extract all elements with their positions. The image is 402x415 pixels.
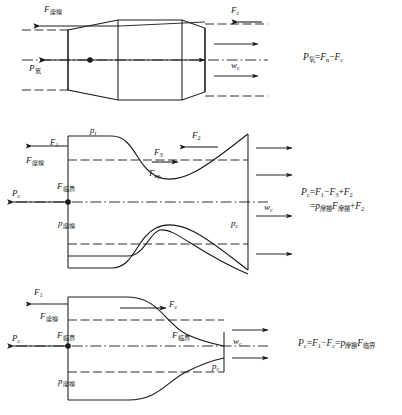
label-pc-right-p3: pc [212,362,219,371]
label-f2-p2: F2 [192,131,201,140]
label-pc-left-p3: Pc [12,334,20,343]
equation-panel-3: Pc=F1−Fc=p摩擦F临界 [298,337,375,351]
label-f-critical-left-p3: F临界 [57,331,75,340]
label-pr-p2: pr [90,126,97,135]
panel-2-lower-contour [68,225,248,270]
label-p-friction-p3: p摩擦 [58,377,75,386]
label-f1-p2: F1 [50,138,59,147]
label-f1-p3: F1 [34,288,43,297]
label-f-friction-p1: F摩擦 [44,5,62,14]
label-f-friction-p2: F摩擦 [26,156,44,165]
label-p-oxygen-p1: P氧 [29,64,41,73]
label-f-critical-right-p3: F临界 [172,331,190,340]
panel-3-upper-contour [68,297,224,346]
label-wc-p2: wc [264,203,273,212]
equation-panel-2: Pc=F1−F3+F2 =p摩擦F摩擦+F2 [301,186,364,214]
label-f3-p2: F3 [154,148,163,157]
panel-3-lower-contour [68,358,224,400]
equation-panel-2-line1: Pc=F1−F3+F2 [301,186,364,200]
label-f-critical-p2: F临界 [57,182,75,191]
label-pc-right-p2: pc [231,219,238,228]
label-pc-left-p2: Pc [12,189,20,198]
label-f-friction-p3: F摩擦 [40,312,58,321]
panel-2-graphic [14,134,292,274]
panel-2-pressure-profile [68,230,248,274]
label-wc-p1: wc [231,61,240,70]
label-p-friction-p2: p摩擦 [58,219,75,228]
label-f-kp-p2: Fкр [149,169,161,178]
label-wc-p3: wc [233,337,242,346]
panel-3-center-dot [65,343,71,349]
label-fc-p1: Fc [231,6,239,15]
equation-panel-2-line2: =p摩擦F摩擦+F2 [301,200,364,214]
label-fc-p3: Fc [169,300,177,309]
equation-panel-1: P氧=Fn−Fc [303,51,343,65]
panel-2-center-dot [65,199,71,205]
